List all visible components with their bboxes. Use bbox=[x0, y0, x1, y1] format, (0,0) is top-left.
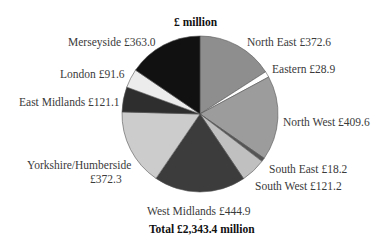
label-east-midlands: East Midlands £121.1 bbox=[19, 96, 120, 109]
label-south-east: South East £18.2 bbox=[269, 163, 347, 176]
label-yorkshire-humberside: Yorkshire/Humberside bbox=[27, 159, 131, 172]
label-london: London £91.6 bbox=[60, 68, 125, 81]
label-merseyside: Merseyside £363.0 bbox=[68, 36, 156, 49]
label-north-east: North East £372.6 bbox=[247, 36, 331, 49]
total-label: Total £2,343.4 million bbox=[149, 223, 255, 235]
label-yorkshire-humberside-value: £372.3 bbox=[90, 173, 122, 186]
chart-title: £ million bbox=[174, 16, 217, 28]
label-eastern: Eastern £28.9 bbox=[272, 63, 335, 76]
label-north-west: North West £409.6 bbox=[283, 116, 370, 129]
label-south-west: South West £121.2 bbox=[255, 180, 342, 193]
